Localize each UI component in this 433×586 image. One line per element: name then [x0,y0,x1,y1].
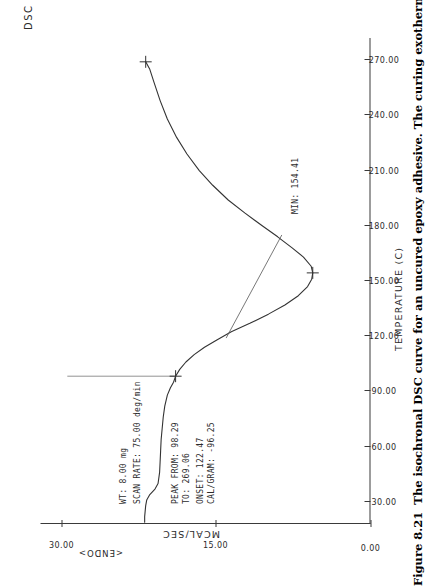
y-axis-title: MCAL/SEC [161,529,219,540]
y-tick-label: 0.00 [360,544,379,553]
x-axis-title: TEMPERATURE (C) [392,247,403,351]
onset-baseline [226,235,282,338]
param-onset: ONSET: 122.47 [195,437,204,504]
x-tick-label: 60.00 [371,442,396,451]
x-tick-label: 180.00 [368,221,398,230]
figure-caption-text: The isochronal DSC curve for an uncured … [411,0,425,505]
dsc-plot-canvas: DSC 30.0060.0090.00120.00150.00180.00210… [0,0,433,586]
y-tick-label: 30.00 [48,541,73,550]
x-tick-label: 210.00 [368,166,398,175]
x-tick-label: 90.00 [371,387,396,396]
dsc-curve-svg [40,38,370,524]
param-scan-rate: SCAN RATE: 75.00 deg/min [132,381,141,504]
annotation-peak-min: MIN: 154.41 [290,158,299,214]
param-peak-from: PEAK FROM: 98.29 [170,422,179,504]
figure-caption: Figure 8.21 The isochronal DSC curve for… [405,0,431,586]
y-tick-label: 15.00 [203,541,228,550]
x-tick-label: 30.00 [371,497,396,506]
plot-area: 30.0060.0090.00120.00150.00180.00210.002… [40,38,370,524]
heat-flow-curve [144,62,312,522]
endo-direction-label: <ENDO> [77,548,122,558]
param-peak-to: TO: 269.06 [181,453,190,504]
x-tick-label: 270.00 [368,56,398,65]
dsc-mode-label: DSC [22,4,33,30]
figure-stage: DSC 30.0060.0090.00120.00150.00180.00210… [0,0,433,586]
x-tick-label: 240.00 [368,111,398,120]
param-cal-gram: CAL/GRAM: -96.25 [206,422,215,504]
figure-number: Figure 8.21 [411,512,425,586]
param-wt: WT: 8.00 mg [118,448,127,504]
